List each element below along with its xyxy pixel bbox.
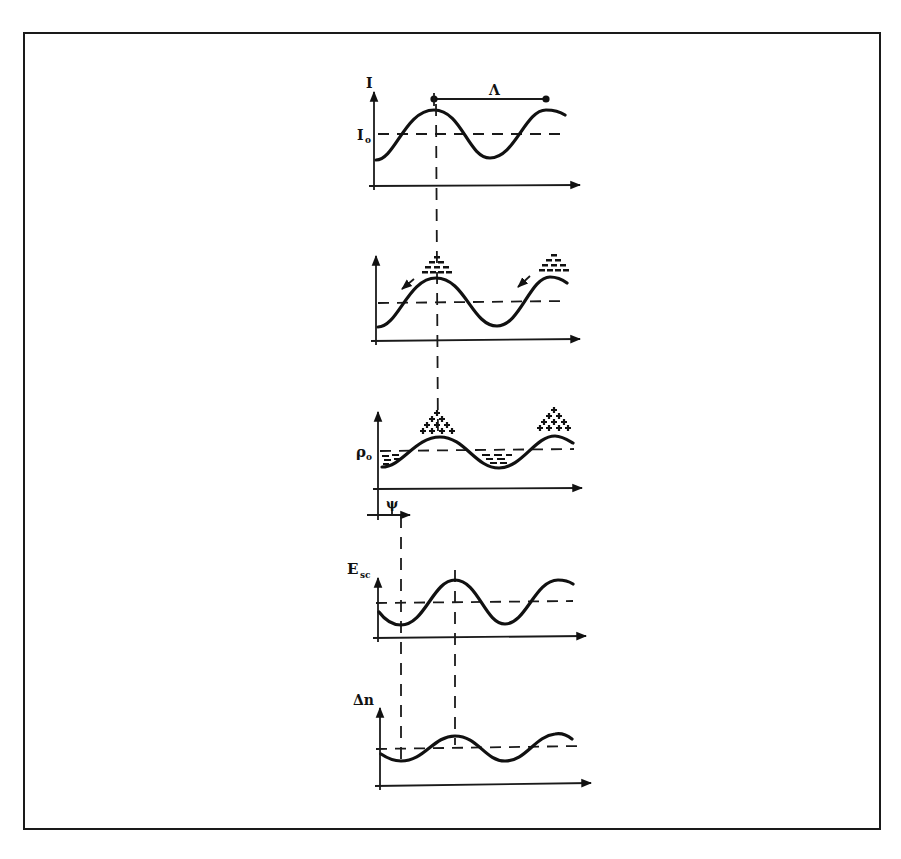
diffusion-arrow-left bbox=[402, 279, 414, 289]
diagram-canvas: Λ I I o bbox=[0, 0, 901, 859]
I0-subscript: o bbox=[365, 135, 371, 145]
I0-label: I bbox=[357, 127, 364, 143]
panel-space-charge-field: E sc bbox=[347, 560, 586, 642]
diffusion-arrow-right bbox=[518, 276, 530, 287]
positive-ions-right bbox=[537, 407, 571, 431]
panel-intensity: Λ I I o bbox=[357, 75, 580, 190]
rho0-label: ρ bbox=[356, 443, 366, 461]
esc-subscript: sc bbox=[360, 570, 371, 580]
x-axis bbox=[369, 185, 580, 186]
x-axis bbox=[375, 783, 591, 786]
mean-level bbox=[376, 601, 573, 603]
intensity-curve bbox=[376, 110, 565, 160]
charge-density-curve bbox=[382, 436, 573, 468]
panel-refractive-index: Δn bbox=[353, 692, 591, 790]
x-axis bbox=[371, 339, 580, 341]
panel-charge-migration bbox=[371, 254, 580, 345]
trapped-electrons-right bbox=[482, 454, 512, 464]
psi-label: ψ bbox=[386, 496, 398, 511]
delta-n-label: Δn bbox=[353, 692, 374, 708]
electron-cluster-right bbox=[539, 254, 569, 272]
esc-label: E bbox=[347, 560, 358, 578]
peak-alignment-line bbox=[436, 104, 438, 440]
rho0-subscript: o bbox=[366, 452, 372, 462]
phase-shift-marker: ψ bbox=[367, 496, 410, 515]
lambda-label: Λ bbox=[488, 82, 501, 98]
intensity-axis-label: I bbox=[366, 75, 373, 91]
x-axis bbox=[373, 488, 582, 489]
x-axis bbox=[373, 636, 586, 638]
